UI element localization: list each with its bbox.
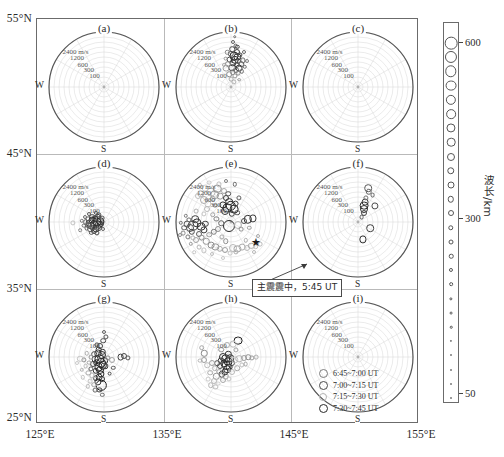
- compass-south-label: S: [101, 144, 106, 154]
- compass-south-label: S: [101, 414, 106, 424]
- data-point-marker: [83, 364, 88, 369]
- colorbar-size-sample: [449, 283, 453, 287]
- compass-west-label: W: [289, 80, 298, 90]
- colorbar-size-sample: [446, 95, 456, 105]
- data-point-marker: [206, 377, 211, 382]
- data-point-marker: [232, 200, 239, 207]
- ring-label-100: 100: [216, 208, 227, 215]
- compass-west-label: W: [162, 350, 171, 360]
- polar-panel-a: 2400 m/s1200600300100WS(a): [44, 27, 164, 147]
- polar-panel-d: 2400 m/s1200600300100WS(d): [44, 162, 164, 282]
- data-point-marker: [224, 179, 228, 183]
- colorbar-size-sample: [447, 167, 454, 174]
- legend-item-3: 7:15~7:30 UT: [316, 391, 378, 403]
- data-point-marker: [197, 244, 202, 249]
- data-point-marker: [359, 215, 364, 220]
- panel-tag: (e): [223, 158, 239, 169]
- colorbar-size-sample: [449, 239, 454, 244]
- data-point-marker: [204, 362, 210, 368]
- compass-south-label: S: [228, 279, 233, 289]
- compass-south-label: S: [228, 414, 233, 424]
- polar-grid: [44, 27, 164, 147]
- data-point-marker: [193, 250, 197, 254]
- data-point-marker: [216, 381, 221, 386]
- legend-item-2: 7:00~7:15 UT: [316, 380, 378, 392]
- ring-label-100: 100: [89, 208, 100, 215]
- colorbar-size-sample: [445, 51, 457, 63]
- panel-tag: (i): [351, 293, 365, 304]
- data-point-marker: [102, 330, 106, 334]
- data-point-marker: [197, 358, 202, 363]
- map-frame: 2400 m/s1200600300100WS(a)2400 m/s120060…: [36, 18, 418, 423]
- colorbar-size-sample: [450, 397, 452, 399]
- x-tick-label-155e: 155°E: [407, 428, 436, 440]
- data-point-marker: [253, 355, 258, 360]
- panel-tag: (g): [96, 293, 113, 304]
- main-shock-star-marker: ★: [251, 237, 261, 248]
- data-point-marker: [101, 227, 105, 231]
- data-point-marker: [109, 357, 115, 363]
- polar-panel-f: 2400 m/s1200600300100WS(f): [298, 162, 418, 282]
- colorbar-tick-50: [459, 393, 463, 394]
- compass-west-label: W: [35, 80, 44, 90]
- data-point-marker: [225, 191, 231, 197]
- data-point-marker: [242, 50, 246, 54]
- colorbar-size-sample: [448, 225, 453, 230]
- data-point-marker: [210, 252, 214, 256]
- data-point-marker: [217, 193, 224, 200]
- colorbar-size-sample: [450, 383, 452, 385]
- data-point-marker: [92, 388, 97, 393]
- data-point-marker: [222, 63, 226, 67]
- panel-tag: (c): [350, 23, 366, 34]
- data-point-marker: [223, 220, 235, 232]
- compass-west-label: W: [289, 215, 298, 225]
- x-tick-label-145e: 145°E: [280, 428, 309, 440]
- data-point-marker: [218, 220, 224, 226]
- y-tick-label-45n: 45°N: [0, 147, 32, 159]
- legend-label: 7:30~7:45 UT: [333, 403, 378, 415]
- data-point-marker: [181, 225, 187, 231]
- data-point-marker: [89, 355, 94, 360]
- main-shock-callout: 主震震中，5:45 UT: [252, 279, 342, 297]
- data-point-marker: [78, 228, 82, 232]
- data-point-marker: [243, 362, 248, 367]
- colorbar-size-sample: [448, 182, 455, 189]
- data-point-marker: [233, 35, 237, 39]
- colorbar-size-sample: [449, 254, 454, 259]
- colorbar-size-sample: [449, 268, 453, 272]
- colorbar-tick-600: [459, 42, 463, 43]
- data-point-marker: [220, 377, 226, 383]
- data-point-marker: [75, 361, 79, 365]
- legend-label: 7:00~7:15 UT: [333, 380, 378, 392]
- data-point-marker: [100, 216, 105, 221]
- polar-panel-c: 2400 m/s1200600300100WS(c): [298, 27, 418, 147]
- data-point-marker: [107, 371, 112, 376]
- data-point-marker: [178, 233, 182, 237]
- colorbar-size-sample: [450, 340, 452, 342]
- panel-tag: (h): [223, 293, 240, 304]
- polar-panel-e: 2400 m/s1200600300100WS(e)★: [171, 162, 291, 282]
- data-point-marker: [84, 226, 89, 231]
- ring-label-100: 100: [89, 73, 100, 80]
- polar-grid: [298, 162, 418, 282]
- colorbar-size-sample: [448, 196, 454, 202]
- polar-grid: [298, 27, 418, 147]
- legend-label: 6:45~7:00 UT: [333, 368, 378, 380]
- data-point-marker: [228, 251, 233, 256]
- map-gridline-horizontal: [37, 289, 417, 290]
- data-point-marker: [223, 56, 228, 61]
- data-point-marker: [199, 345, 205, 351]
- wavelength-colorbar: [443, 22, 459, 403]
- colorbar-tick-label-300: 300: [465, 213, 481, 224]
- data-point-marker: [222, 247, 228, 253]
- data-point-marker: [88, 378, 93, 383]
- ring-label-100: 100: [343, 343, 354, 350]
- polar-panel-h: 2400 m/s1200600300100WS(h): [171, 297, 291, 417]
- data-point-marker: [223, 238, 229, 244]
- data-point-marker: [239, 227, 244, 232]
- colorbar-size-sample: [450, 354, 452, 356]
- data-point-marker: [83, 215, 87, 219]
- ring-label-100: 100: [343, 208, 354, 215]
- ring-label-100: 100: [343, 73, 354, 80]
- data-point-marker: [98, 221, 104, 227]
